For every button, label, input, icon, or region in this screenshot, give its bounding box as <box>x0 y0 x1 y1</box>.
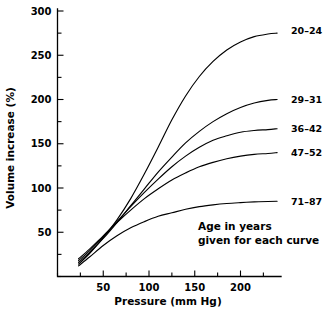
x-tick-label: 200 <box>230 282 251 293</box>
annotation-line-2: given for each curve <box>198 234 319 246</box>
x-tick-label: 100 <box>139 282 160 293</box>
annotation-line-1: Age in years <box>198 220 272 232</box>
y-tick-label: 250 <box>31 50 52 61</box>
curve-label-47-52: 47–52 <box>291 147 322 158</box>
y-tick-label: 50 <box>38 227 52 238</box>
curve-label-29-31: 29–31 <box>291 94 322 105</box>
y-tick-label: 150 <box>31 138 52 149</box>
y-axis-ticks <box>58 11 64 277</box>
chart-canvas: 50100150200 50100150200250300 20–2429–31… <box>0 0 333 313</box>
curve-label-71-87: 71–87 <box>291 196 322 207</box>
x-tick-label: 50 <box>96 282 110 293</box>
y-tick-label: 100 <box>31 183 52 194</box>
y-tick-label: 300 <box>31 6 52 17</box>
curve-labels: 20–2429–3136–4247–5271–87 <box>291 25 323 207</box>
curve-label-20-24: 20–24 <box>291 25 323 36</box>
chart-figure: 50100150200 50100150200250300 20–2429–31… <box>0 0 333 313</box>
x-axis-ticks <box>58 271 264 277</box>
curve-label-36-42: 36–42 <box>291 123 322 134</box>
y-axis-tick-labels: 50100150200250300 <box>31 6 52 238</box>
x-tick-label: 150 <box>184 282 205 293</box>
y-tick-label: 200 <box>31 94 52 105</box>
x-axis-tick-labels: 50100150200 <box>96 282 251 293</box>
y-axis-label: Volume increase (%) <box>4 87 16 208</box>
x-axis-label: Pressure (mm Hg) <box>114 295 221 307</box>
